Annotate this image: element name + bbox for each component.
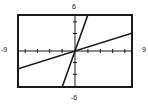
x-axis-max-label: 9	[142, 46, 146, 54]
x-axis-min-label: -9	[1, 46, 7, 54]
plot-area	[19, 16, 131, 86]
plot-frame	[17, 14, 133, 88]
y-axis-max-label: 6	[0, 3, 148, 11]
y-axis-min-label: -6	[0, 94, 148, 102]
graph-widget: 6 -6 -9 9	[0, 0, 148, 104]
